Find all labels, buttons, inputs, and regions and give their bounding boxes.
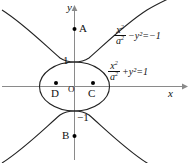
point-c-label: C [88,88,95,99]
point-a-dot [73,27,77,31]
x-axis-arrow-icon [182,84,188,90]
ellipse-denominator: a2 [108,72,120,82]
figure-canvas [0,0,195,163]
hyperbola-numerator: x2 [114,25,125,35]
ellipse-equation-rest: +y²=1 [121,67,148,77]
y-axis-arrow-icon [72,5,78,11]
ellipse-fraction: x2 a2 [108,61,120,82]
hyperbola-equation-text: x2 a2 −y²=−1 [113,25,161,46]
point-d-label: D [51,88,59,99]
conic-sections-figure: y x O 1 −1 A B C D x2 a2 −y²=−1 x2 a2 + [0,0,195,163]
hyperbola-denominator: a2 [114,36,126,46]
x-axis-label: x [168,88,173,99]
origin-label: O [68,85,75,94]
hyperbola-equation-label: x2 a2 −y²=−1 [113,20,161,46]
point-b-label: B [62,130,69,141]
hyperbola-fraction: x2 a2 [114,25,126,46]
y-axis-label: y [67,2,72,13]
point-c-dot [91,81,95,85]
y-tick-label-positive-one: 1 [63,55,69,66]
point-b-dot [73,134,77,138]
ellipse-equation-label: x2 a2 +y²=1 [107,56,148,82]
hyperbola-equation-rest: −y²=−1 [127,31,161,41]
point-a-label: A [79,23,87,34]
point-d-dot [54,81,58,85]
y-tick-label-negative-one: −1 [77,112,89,123]
ellipse-numerator: x2 [108,61,119,71]
ellipse-equation-text: x2 a2 +y²=1 [107,61,148,82]
